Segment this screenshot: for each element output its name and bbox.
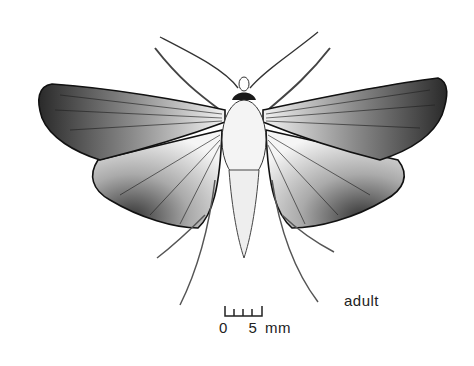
scale-unit: mm [265,319,291,336]
scale-bar [225,306,262,316]
moth-body [222,77,266,258]
stage-label: adult [344,292,379,309]
scale-start: 0 [219,319,228,336]
scale-end: 5 [249,319,258,336]
scale-label: 0 5 mm [219,319,291,336]
moth-illustration [0,0,474,366]
